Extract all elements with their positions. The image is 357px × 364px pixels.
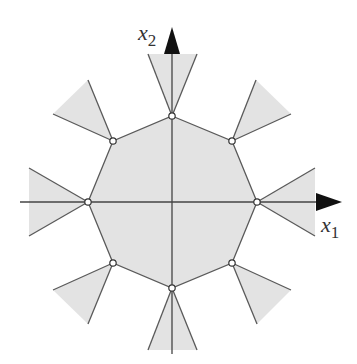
vertex-marker bbox=[254, 199, 260, 205]
x1-arrow-icon bbox=[316, 193, 342, 211]
normal-cone-3 bbox=[232, 263, 291, 324]
vertex-marker bbox=[85, 199, 91, 205]
x2-arrow-icon bbox=[164, 27, 180, 54]
x1-axis-label: x1 bbox=[320, 212, 339, 242]
normal-cone-7 bbox=[53, 80, 113, 141]
vertex-marker bbox=[110, 260, 116, 266]
vertex-marker bbox=[229, 138, 235, 144]
x2-axis-label: x2 bbox=[137, 20, 156, 50]
vertex-marker bbox=[169, 285, 175, 291]
octagon-normal-cone-diagram: x1 x2 bbox=[0, 0, 357, 364]
vertex-marker bbox=[169, 113, 175, 119]
normal-cone-5 bbox=[53, 263, 113, 324]
normal-cone-1 bbox=[232, 80, 291, 141]
vertex-marker bbox=[229, 260, 235, 266]
vertex-marker bbox=[110, 138, 116, 144]
